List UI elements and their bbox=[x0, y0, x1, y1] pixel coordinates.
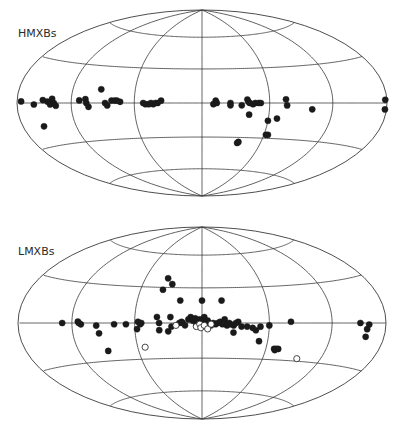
source-marker bbox=[165, 275, 171, 281]
source-marker bbox=[31, 101, 37, 107]
source-marker bbox=[283, 96, 289, 102]
source-marker bbox=[246, 112, 252, 118]
source-marker bbox=[117, 99, 123, 105]
source-marker bbox=[275, 346, 281, 352]
source-marker bbox=[258, 100, 264, 106]
source-marker bbox=[156, 320, 162, 326]
source-marker bbox=[288, 319, 294, 325]
source-marker bbox=[366, 321, 372, 327]
source-marker bbox=[85, 104, 91, 110]
source-marker bbox=[123, 321, 129, 327]
source-marker bbox=[76, 97, 82, 103]
open-source-marker bbox=[208, 321, 214, 327]
source-marker bbox=[214, 100, 220, 106]
source-marker bbox=[41, 123, 47, 129]
source-marker bbox=[78, 321, 84, 327]
source-marker bbox=[156, 327, 162, 333]
source-marker bbox=[265, 132, 271, 138]
source-marker bbox=[111, 321, 117, 327]
source-marker bbox=[256, 338, 262, 344]
source-marker bbox=[274, 115, 280, 121]
source-marker bbox=[309, 106, 315, 112]
source-marker bbox=[266, 322, 272, 328]
source-marker bbox=[218, 297, 224, 303]
source-marker bbox=[93, 322, 99, 328]
source-marker bbox=[382, 106, 388, 112]
hmxb-panel-label: HMXBs bbox=[18, 27, 57, 40]
source-marker bbox=[105, 348, 111, 354]
source-marker bbox=[18, 98, 24, 104]
source-marker bbox=[169, 281, 175, 287]
source-marker bbox=[53, 103, 59, 109]
source-marker bbox=[154, 314, 160, 320]
hmxb-sky-map: HMXBs bbox=[0, 0, 404, 215]
source-marker bbox=[357, 320, 363, 326]
open-source-marker bbox=[142, 344, 148, 350]
open-source-marker bbox=[294, 356, 300, 362]
source-marker bbox=[96, 330, 102, 336]
source-marker bbox=[182, 322, 188, 328]
source-marker bbox=[244, 324, 250, 330]
source-marker bbox=[177, 297, 183, 303]
source-marker bbox=[382, 97, 388, 103]
source-marker bbox=[158, 98, 164, 104]
hmxb-map-plot bbox=[0, 0, 404, 215]
lmxb-panel-label: LMXBs bbox=[18, 245, 54, 258]
source-marker bbox=[257, 324, 263, 330]
open-source-marker bbox=[173, 322, 179, 328]
source-marker bbox=[230, 329, 236, 335]
lmxb-map-plot bbox=[0, 215, 404, 431]
source-marker bbox=[167, 314, 173, 320]
source-marker bbox=[199, 297, 205, 303]
source-marker bbox=[239, 102, 245, 108]
source-marker bbox=[363, 334, 369, 340]
source-marker bbox=[265, 118, 271, 124]
source-marker bbox=[235, 139, 241, 145]
source-marker bbox=[227, 102, 233, 108]
source-marker bbox=[238, 323, 244, 329]
source-marker bbox=[284, 102, 290, 108]
source-marker bbox=[138, 320, 144, 326]
source-marker bbox=[98, 86, 104, 92]
source-marker bbox=[59, 320, 65, 326]
source-marker bbox=[104, 102, 110, 108]
lmxb-sky-map: LMXBs bbox=[0, 215, 404, 431]
source-marker bbox=[160, 287, 166, 293]
